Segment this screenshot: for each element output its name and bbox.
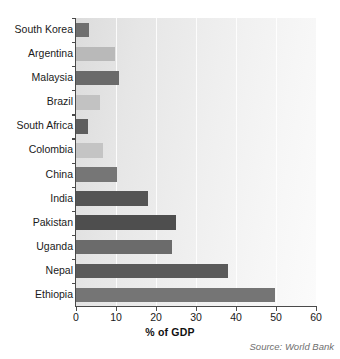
x-axis-title: % of GDP: [0, 326, 340, 338]
category-label-nepal: Nepal: [2, 265, 76, 276]
x-tick-label-30: 30: [181, 311, 211, 323]
bar-chart: 0102030405060 South KoreaArgentinaMalays…: [0, 0, 340, 359]
x-tick-label-20: 20: [141, 311, 171, 323]
category-label-china: China: [2, 169, 76, 180]
bar-pakistan: [76, 215, 176, 230]
category-label-argentina: Argentina: [2, 48, 76, 59]
category-label-colombia: Colombia: [2, 144, 76, 155]
bar-colombia: [76, 143, 103, 158]
category-label-malaysia: Malaysia: [2, 72, 76, 83]
source-note: Source: World Bank: [250, 341, 334, 352]
bar-south-korea: [76, 23, 89, 38]
bar-argentina: [76, 47, 115, 62]
bar-china: [76, 167, 117, 182]
x-tick-label-60: 60: [301, 311, 331, 323]
bar-malaysia: [76, 71, 119, 86]
category-label-south-korea: South Korea: [2, 24, 76, 35]
category-labels: South KoreaArgentinaMalaysiaBrazilSouth …: [0, 0, 76, 359]
bar-india: [76, 191, 148, 206]
category-label-south-africa: South Africa: [2, 120, 76, 131]
category-label-pakistan: Pakistan: [2, 217, 76, 228]
bar-ethiopia: [76, 288, 275, 303]
bar-nepal: [76, 264, 228, 279]
x-tick-label-40: 40: [221, 311, 251, 323]
bar-south-africa: [76, 119, 88, 134]
category-label-india: India: [2, 193, 76, 204]
x-tick-label-50: 50: [261, 311, 291, 323]
gridline-40: [236, 18, 237, 307]
x-tick-label-10: 10: [101, 311, 131, 323]
bar-brazil: [76, 95, 100, 110]
category-label-uganda: Uganda: [2, 241, 76, 252]
gridline-50: [276, 18, 277, 307]
bar-uganda: [76, 240, 172, 255]
category-label-brazil: Brazil: [2, 96, 76, 107]
category-label-ethiopia: Ethiopia: [2, 289, 76, 300]
